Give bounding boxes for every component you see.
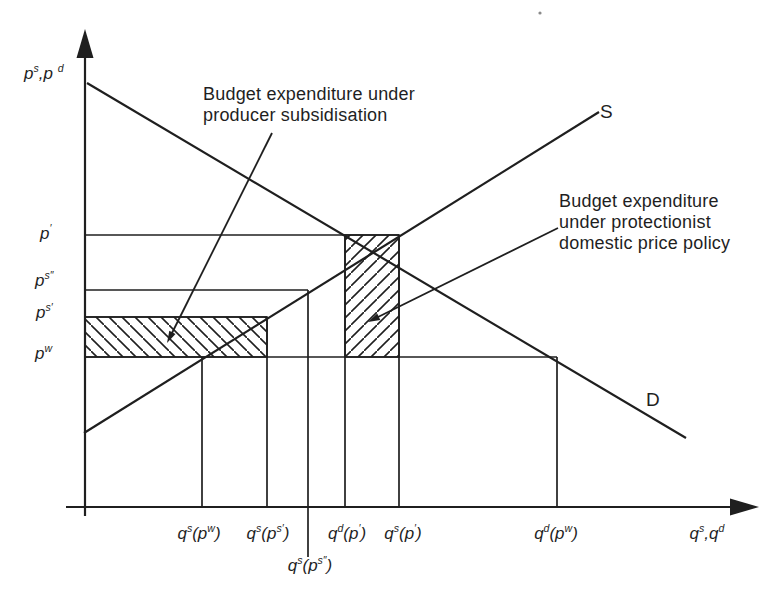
price-label-p-prime: p′ <box>40 224 51 244</box>
supply-curve-label: S <box>600 101 613 123</box>
y-axis-title: ps,p d <box>24 64 64 84</box>
quantity-label-qs-p-prime: qs(p′) <box>384 524 422 544</box>
protection-caption-line1: Budget expenditure <box>559 191 730 212</box>
quantity-label-qs-ps-prime: qs(ps′) <box>247 524 290 544</box>
subsidy-caption: Budget expenditure under producer subsid… <box>203 84 415 126</box>
protection-caption-line2: under protectionist <box>559 212 730 233</box>
price-label-p-world: pw <box>35 344 52 364</box>
subsidy-caption-line1: Budget expenditure under <box>203 84 415 105</box>
protection-caption: Budget expenditure under protectionist d… <box>559 191 730 254</box>
scan-speck <box>538 11 541 14</box>
protection-leader-line <box>375 228 558 319</box>
quantity-label-qs-ps-double-prime: qs(ps″) <box>288 556 333 576</box>
x-axis-title: qs,qd <box>690 524 725 544</box>
supply-curve <box>84 112 599 433</box>
quantity-label-qd-p-prime: qd(p′) <box>328 524 366 544</box>
demand-curve-label: D <box>646 389 660 411</box>
protection-caption-line3: domestic price policy <box>559 233 730 254</box>
demand-curve <box>87 83 686 438</box>
y-axis-arrow-icon <box>77 29 94 58</box>
price-label-p-s-prime: ps′ <box>36 303 53 323</box>
price-label-p-s-double-prime: ps″ <box>35 271 53 291</box>
quantity-label-qd-pw: qd(pw) <box>534 524 578 544</box>
x-axis-arrow-icon <box>730 499 759 516</box>
quantity-label-qs-pw: qs(pw) <box>177 524 220 544</box>
subsidy-caption-line2: producer subsidisation <box>203 105 415 126</box>
economics-diagram: ps,p d qs,qd S D p′ ps″ ps′ pw qs(pw) qs… <box>0 0 778 600</box>
